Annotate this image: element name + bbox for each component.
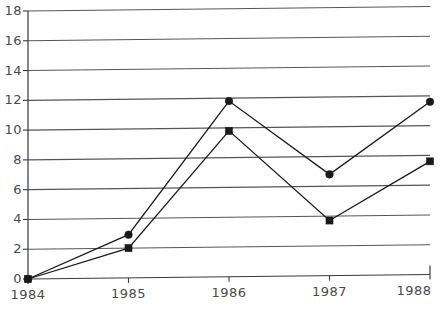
y-axis-tick-label: 0 bbox=[0, 271, 22, 286]
series-line bbox=[28, 131, 430, 279]
data-point-marker bbox=[125, 231, 133, 239]
x-axis-ticks bbox=[28, 275, 430, 285]
gridline bbox=[28, 66, 430, 71]
x-axis-tick-label: 1984 bbox=[0, 287, 58, 302]
gridline bbox=[28, 155, 430, 160]
gridline bbox=[28, 185, 430, 190]
data-point-marker bbox=[326, 171, 334, 179]
gridline bbox=[28, 245, 430, 250]
x-axis-tick-label: 1988 bbox=[384, 283, 444, 298]
data-point-marker bbox=[226, 127, 233, 134]
y-axis-tick-label: 14 bbox=[0, 63, 22, 78]
y-axis-ticks bbox=[23, 11, 28, 279]
x-axis-tick-label: 1985 bbox=[99, 286, 159, 301]
data-series bbox=[24, 97, 434, 283]
gridline bbox=[28, 215, 430, 220]
data-point-marker bbox=[125, 245, 132, 252]
data-point-marker bbox=[225, 97, 233, 105]
y-axis-tick-label: 6 bbox=[0, 182, 22, 197]
data-point-marker bbox=[426, 98, 434, 106]
y-axis-tick-label: 8 bbox=[0, 152, 22, 167]
y-axis-tick-label: 12 bbox=[0, 92, 22, 107]
gridline bbox=[28, 36, 430, 41]
y-axis-tick-label: 18 bbox=[0, 3, 22, 18]
line-chart: 024681012141618 19841985198619871988 bbox=[0, 0, 446, 312]
y-axis-tick-label: 16 bbox=[0, 33, 22, 48]
data-point-marker bbox=[25, 276, 32, 283]
x-axis-tick-label: 1986 bbox=[199, 285, 259, 300]
y-axis-tick-label: 10 bbox=[0, 122, 22, 137]
y-axis-tick-label: 2 bbox=[0, 241, 22, 256]
data-point-marker bbox=[326, 217, 333, 224]
chart-plot-area bbox=[0, 0, 446, 312]
gridline bbox=[28, 7, 430, 12]
y-axis-tick-label: 4 bbox=[0, 211, 22, 226]
x-axis-tick-label: 1987 bbox=[300, 284, 360, 299]
data-point-marker bbox=[427, 158, 434, 165]
